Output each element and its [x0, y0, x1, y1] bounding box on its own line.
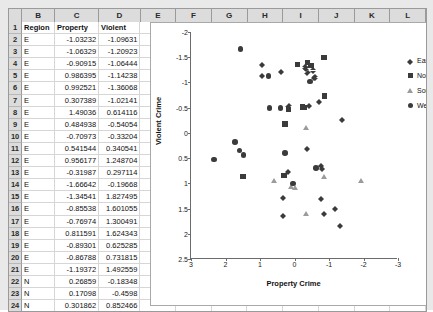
- grid-cell[interactable]: Property: [55, 22, 99, 34]
- legend-item-north[interactable]: North: [406, 68, 427, 83]
- row-header[interactable]: 15: [9, 191, 22, 203]
- grid-cell[interactable]: 0.307389: [55, 95, 99, 107]
- scatter-chart[interactable]: -2-1.5-1-0.500.511.522.53210-1-2-3 Viole…: [150, 22, 427, 306]
- scatter-point-east[interactable]: [312, 71, 318, 77]
- grid-cell[interactable]: E: [22, 216, 55, 228]
- scatter-point-west[interactable]: [211, 157, 217, 163]
- grid-cell[interactable]: 0.541544: [55, 143, 99, 155]
- scatter-point-north[interactable]: [281, 173, 286, 178]
- grid-cell[interactable]: -1.06444: [99, 58, 140, 70]
- row-header[interactable]: 19: [9, 240, 22, 252]
- grid-cell[interactable]: -1.19372: [55, 264, 99, 276]
- row-header[interactable]: 10: [9, 131, 22, 143]
- column-header-e[interactable]: E: [141, 9, 177, 22]
- grid-cell[interactable]: -1.66642: [55, 179, 99, 191]
- grid-cell[interactable]: 0.301862: [55, 300, 99, 312]
- scatter-point-west[interactable]: [278, 105, 284, 111]
- row-header[interactable]: 17: [9, 216, 22, 228]
- scatter-point-south[interactable]: [271, 178, 277, 183]
- grid-cell[interactable]: 1.624343: [99, 228, 140, 240]
- legend-item-east[interactable]: East: [406, 53, 427, 68]
- row-header[interactable]: 14: [9, 179, 22, 191]
- scatter-point-north[interactable]: [282, 121, 287, 126]
- scatter-point-east[interactable]: [259, 59, 265, 65]
- grid-cell[interactable]: 0.731815: [99, 252, 140, 264]
- scatter-point-east[interactable]: [332, 203, 338, 209]
- scatter-point-east[interactable]: [280, 210, 286, 216]
- grid-cell[interactable]: -1.34541: [55, 191, 99, 203]
- row-header[interactable]: 11: [9, 143, 22, 155]
- scatter-point-north[interactable]: [321, 55, 326, 60]
- grid-cell[interactable]: -1.02141: [99, 95, 140, 107]
- scatter-point-west[interactable]: [266, 73, 272, 79]
- grid-cell[interactable]: 0.956177: [55, 155, 99, 167]
- grid-cell[interactable]: 1.601055: [99, 203, 140, 215]
- column-header-k[interactable]: K: [355, 9, 391, 22]
- scatter-point-east[interactable]: [337, 220, 343, 226]
- grid-cell[interactable]: 0.986395: [55, 70, 99, 82]
- grid-cell[interactable]: -0.89301: [55, 240, 99, 252]
- grid-cell[interactable]: N: [22, 288, 55, 300]
- scatter-point-south[interactable]: [303, 125, 309, 130]
- row-header[interactable]: 7: [9, 95, 22, 107]
- grid-cell[interactable]: E: [22, 179, 55, 191]
- grid-cell[interactable]: -0.19668: [99, 179, 140, 191]
- grid-cell[interactable]: E: [22, 46, 55, 58]
- scatter-point-east[interactable]: [285, 166, 291, 172]
- scatter-point-west[interactable]: [241, 152, 247, 158]
- scatter-point-west[interactable]: [267, 105, 273, 111]
- row-header[interactable]: 3: [9, 46, 22, 58]
- grid-cell[interactable]: -1.20923: [99, 46, 140, 58]
- scatter-point-east[interactable]: [321, 208, 327, 214]
- scatter-point-east[interactable]: [339, 114, 345, 120]
- column-header-h[interactable]: H: [248, 9, 284, 22]
- row-header[interactable]: 18: [9, 228, 22, 240]
- grid-cell[interactable]: E: [22, 95, 55, 107]
- grid-cell[interactable]: E: [22, 191, 55, 203]
- scatter-point-east[interactable]: [286, 100, 292, 106]
- grid-cell[interactable]: Region: [22, 22, 55, 34]
- select-all-corner[interactable]: [9, 9, 22, 22]
- grid-cell[interactable]: -0.4598: [99, 288, 140, 300]
- grid-cell[interactable]: E: [22, 240, 55, 252]
- row-header[interactable]: 24: [9, 300, 22, 312]
- scatter-point-north[interactable]: [322, 93, 327, 98]
- column-header-j[interactable]: J: [319, 9, 355, 22]
- grid-cell[interactable]: 0.340541: [99, 143, 140, 155]
- scatter-point-west[interactable]: [282, 150, 288, 156]
- scatter-point-east[interactable]: [280, 192, 286, 198]
- grid-cell[interactable]: E: [22, 119, 55, 131]
- scatter-point-north[interactable]: [295, 62, 300, 67]
- scatter-point-north[interactable]: [300, 104, 305, 109]
- scatter-point-west[interactable]: [290, 181, 296, 187]
- grid-cell[interactable]: E: [22, 70, 55, 82]
- grid-cell[interactable]: -0.18348: [99, 276, 140, 288]
- grid-cell[interactable]: -1.14238: [99, 70, 140, 82]
- row-header[interactable]: 5: [9, 70, 22, 82]
- grid-cell[interactable]: E: [22, 82, 55, 94]
- grid-cell[interactable]: -0.90915: [55, 58, 99, 70]
- grid-cell[interactable]: 0.297114: [99, 167, 140, 179]
- scatter-point-east[interactable]: [304, 143, 310, 149]
- row-header[interactable]: 23: [9, 288, 22, 300]
- scatter-point-north[interactable]: [240, 174, 245, 179]
- scatter-point-south[interactable]: [303, 211, 309, 216]
- grid-cell[interactable]: 1.248704: [99, 155, 140, 167]
- grid-cell[interactable]: E: [22, 58, 55, 70]
- grid-cell[interactable]: 0.625285: [99, 240, 140, 252]
- grid-cell[interactable]: -1.06329: [55, 46, 99, 58]
- grid-cell[interactable]: -1.36068: [99, 82, 140, 94]
- row-header[interactable]: 21: [9, 264, 22, 276]
- grid-cell[interactable]: 0.484938: [55, 119, 99, 131]
- grid-cell[interactable]: -0.70973: [55, 131, 99, 143]
- column-header-i[interactable]: I: [283, 9, 319, 22]
- grid-cell[interactable]: E: [22, 107, 55, 119]
- scatter-point-south[interactable]: [358, 178, 364, 183]
- grid-cell[interactable]: E: [22, 155, 55, 167]
- grid-cell[interactable]: 0.17098: [55, 288, 99, 300]
- column-header-f[interactable]: F: [176, 9, 212, 22]
- row-header[interactable]: 13: [9, 167, 22, 179]
- grid-cell[interactable]: -0.86788: [55, 252, 99, 264]
- grid-cell[interactable]: -0.54054: [99, 119, 140, 131]
- scatter-point-west[interactable]: [238, 46, 244, 52]
